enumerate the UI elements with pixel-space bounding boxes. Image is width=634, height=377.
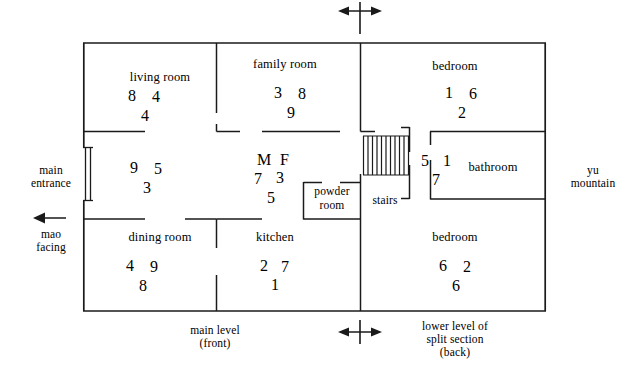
star-mountain-center: 7 bbox=[254, 171, 262, 187]
star-group-family-room: 3 8 9 bbox=[266, 85, 336, 127]
bottom-arrow-head-left bbox=[338, 328, 349, 337]
star-group-bedroom-upper: 1 6 2 bbox=[437, 85, 507, 127]
star-mountain-family-room: 3 bbox=[274, 85, 282, 101]
yu-mountain-line-1: yu bbox=[557, 164, 629, 177]
main-level-line-1: main level bbox=[150, 324, 280, 337]
main-level-line-2: (front) bbox=[150, 337, 280, 350]
main-entrance-line-1: main bbox=[18, 164, 84, 177]
star-water-dining-room: 9 bbox=[150, 259, 158, 275]
top-arrow-head-left bbox=[338, 7, 349, 16]
room-label-bedroom-upper: bedroom bbox=[395, 59, 515, 73]
star-group-kitchen: 2 7 1 bbox=[250, 258, 320, 300]
star-water-bedroom-lower: 2 bbox=[463, 259, 471, 275]
room-label-stairs: stairs bbox=[361, 194, 409, 208]
star-period-family-room: 9 bbox=[287, 105, 295, 121]
star-mountain-stairs: 5 bbox=[421, 153, 429, 169]
star-period-hall-left: 3 bbox=[143, 180, 151, 196]
annotation-yu-mountain: yu mountain bbox=[557, 164, 629, 190]
star-mountain-hall-left: 9 bbox=[130, 160, 138, 176]
star-period-stairs: 7 bbox=[432, 172, 440, 188]
top-compass-arrow bbox=[341, 2, 379, 34]
star-label-mountain-m: M bbox=[257, 152, 271, 168]
lower-level-line-2: split section bbox=[390, 333, 520, 346]
star-water-center: 3 bbox=[276, 170, 284, 186]
star-group-dining-room: 4 9 8 bbox=[118, 258, 188, 300]
star-group-bedroom-lower: 6 2 6 bbox=[431, 258, 501, 300]
star-mountain-bedroom-lower: 6 bbox=[439, 258, 447, 274]
lower-level-line-1: lower level of bbox=[390, 320, 520, 333]
mao-facing-line-1: mao bbox=[18, 228, 84, 241]
room-label-family-room: family room bbox=[225, 57, 345, 71]
star-period-bedroom-lower: 6 bbox=[452, 278, 460, 294]
star-period-bedroom-upper: 2 bbox=[458, 105, 466, 121]
star-label-water-f: F bbox=[280, 152, 289, 168]
star-group-stairs: 5 1 7 bbox=[419, 153, 479, 193]
main-entrance-line-2: entrance bbox=[18, 177, 84, 190]
star-period-dining-room: 8 bbox=[139, 278, 147, 294]
room-label-living-room: living room bbox=[100, 70, 220, 84]
mao-facing-line-2: facing bbox=[18, 241, 84, 254]
star-mountain-bedroom-upper: 1 bbox=[445, 85, 453, 101]
bottom-arrow-head-right bbox=[371, 328, 382, 337]
room-label-dining-room: dining room bbox=[100, 230, 220, 244]
star-water-hall-left: 5 bbox=[154, 161, 162, 177]
annotation-mao-facing: mao facing bbox=[18, 228, 84, 254]
floor-plan-diagram: living room family room bedroom powder r… bbox=[0, 0, 634, 377]
mao-facing-arrow-head bbox=[33, 213, 45, 224]
room-label-bedroom-lower: bedroom bbox=[395, 230, 515, 244]
star-mountain-dining-room: 4 bbox=[126, 258, 134, 274]
stairs-treads bbox=[363, 136, 410, 175]
star-water-kitchen: 7 bbox=[281, 259, 289, 275]
star-period-kitchen: 1 bbox=[271, 277, 279, 293]
star-mountain-living-room: 8 bbox=[128, 88, 136, 104]
star-group-hall-left: 9 5 3 bbox=[122, 160, 192, 202]
main-entrance-door bbox=[83, 147, 93, 201]
room-label-kitchen: kitchen bbox=[220, 230, 330, 244]
star-mountain-kitchen: 2 bbox=[260, 258, 268, 274]
star-period-living-room: 4 bbox=[141, 108, 149, 124]
star-water-living-room: 4 bbox=[152, 89, 160, 105]
annotation-main-level: main level (front) bbox=[150, 324, 280, 350]
top-arrow-head-right bbox=[371, 7, 382, 16]
star-water-family-room: 8 bbox=[298, 86, 306, 102]
star-group-living-room: 8 4 4 bbox=[120, 88, 190, 130]
lower-level-line-3: (back) bbox=[390, 346, 520, 359]
annotation-main-entrance: main entrance bbox=[18, 164, 84, 190]
annotation-lower-level: lower level of split section (back) bbox=[390, 320, 520, 360]
yu-mountain-line-2: mountain bbox=[557, 177, 629, 190]
star-water-stairs: 1 bbox=[443, 153, 451, 169]
star-period-center: 5 bbox=[267, 190, 275, 206]
star-group-center-mf: M F 7 3 5 bbox=[250, 152, 320, 212]
star-water-bedroom-upper: 6 bbox=[469, 86, 477, 102]
